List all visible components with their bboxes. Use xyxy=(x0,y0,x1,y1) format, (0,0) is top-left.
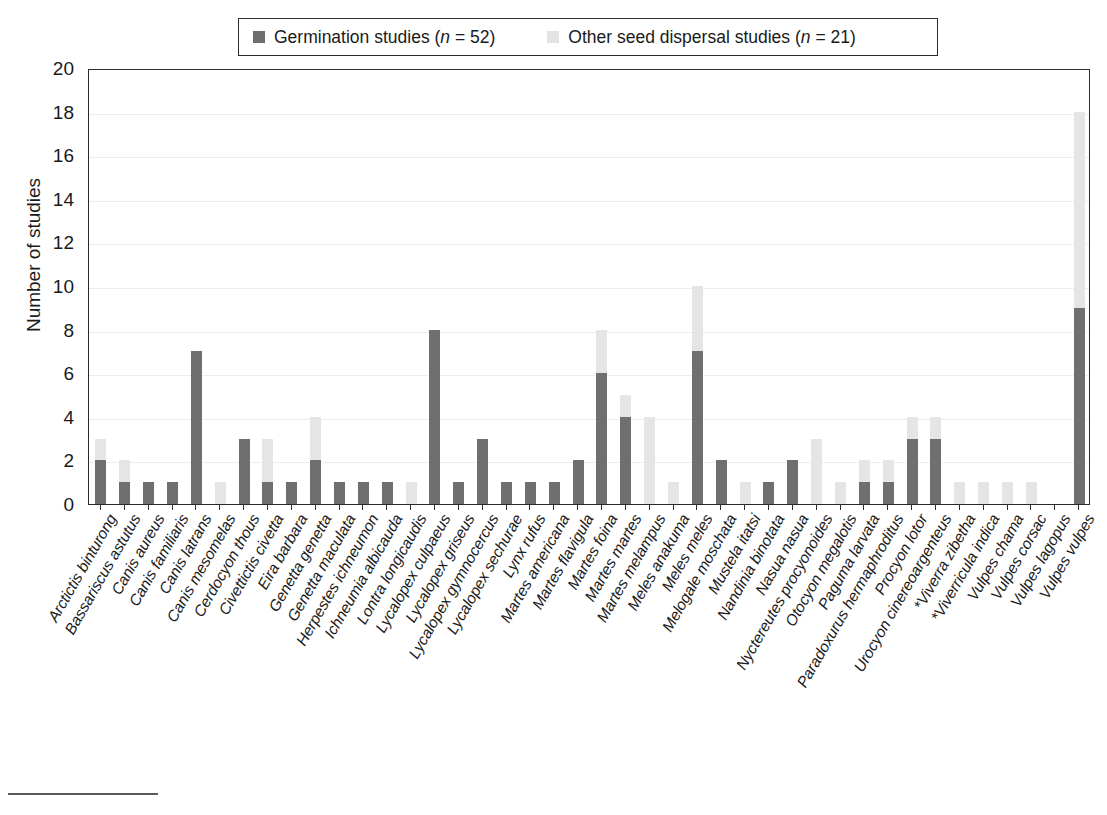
x-axis-tick-labels: Arctictis binturongBassariscus astutusCa… xyxy=(88,505,1090,775)
bar-segment-germination xyxy=(573,460,584,504)
bar-segment-other-dispersal xyxy=(954,482,965,504)
bar-segment-other-dispersal xyxy=(95,439,106,461)
bar-column xyxy=(573,68,584,504)
bar-column xyxy=(1050,68,1061,504)
bar-column xyxy=(907,68,918,504)
bar-column xyxy=(883,68,894,504)
bar-segment-other-dispersal xyxy=(692,286,703,351)
bar-segment-germination xyxy=(501,482,512,504)
bar-segment-germination xyxy=(334,482,345,504)
bar-column xyxy=(95,68,106,504)
bar-column xyxy=(525,68,536,504)
bar-segment-other-dispersal xyxy=(907,417,918,439)
bar-segment-germination xyxy=(119,482,130,504)
bar-segment-germination xyxy=(692,351,703,504)
bar-segment-germination xyxy=(143,482,154,504)
bar-segment-germination xyxy=(477,439,488,504)
bar-column xyxy=(167,68,178,504)
bar-column xyxy=(191,68,202,504)
bar-segment-other-dispersal xyxy=(978,482,989,504)
bar-segment-germination xyxy=(716,460,727,504)
bar-segment-germination xyxy=(549,482,560,504)
bar-column xyxy=(215,68,226,504)
bar-segment-other-dispersal xyxy=(740,482,751,504)
bar-column xyxy=(978,68,989,504)
legend-swatch-germination-icon xyxy=(253,31,265,43)
bar-segment-germination xyxy=(286,482,297,504)
y-axis-tick-12: 12 xyxy=(53,232,74,254)
bar-segment-germination xyxy=(191,351,202,504)
bar-segment-other-dispersal xyxy=(1002,482,1013,504)
bar-segment-germination xyxy=(239,439,250,504)
bar-column xyxy=(811,68,822,504)
legend-swatch-other-dispersal-icon xyxy=(547,31,559,43)
bar-segment-germination xyxy=(167,482,178,504)
bar-segment-germination xyxy=(453,482,464,504)
bar-column xyxy=(644,68,655,504)
y-axis-tick-20: 20 xyxy=(53,58,74,80)
bar-column xyxy=(501,68,512,504)
bar-segment-germination xyxy=(358,482,369,504)
bar-column xyxy=(930,68,941,504)
bar-segment-germination xyxy=(787,460,798,504)
bar-column xyxy=(286,68,297,504)
bar-column xyxy=(692,68,703,504)
bar-segment-germination xyxy=(883,482,894,504)
bar-segment-other-dispersal xyxy=(668,482,679,504)
bar-segment-germination xyxy=(1074,308,1085,504)
bar-segment-other-dispersal xyxy=(883,460,894,482)
bar-segment-other-dispersal xyxy=(1026,482,1037,504)
y-axis-tick-6: 6 xyxy=(63,363,74,385)
bar-column xyxy=(453,68,464,504)
legend-entry-germination: Germination studies (n = 52) xyxy=(253,27,495,48)
bar-segment-germination xyxy=(525,482,536,504)
bar-segment-other-dispersal xyxy=(310,417,321,461)
bar-series-group xyxy=(89,70,1089,504)
bar-column xyxy=(119,68,130,504)
bar-segment-germination xyxy=(907,439,918,504)
bar-segment-germination xyxy=(429,330,440,504)
bar-segment-other-dispersal xyxy=(406,482,417,504)
legend-label-other-dispersal: Other seed dispersal studies (n = 21) xyxy=(568,27,855,48)
bar-segment-other-dispersal xyxy=(859,460,870,482)
bar-segment-germination xyxy=(930,439,941,504)
bar-segment-other-dispersal xyxy=(811,439,822,504)
bar-segment-germination xyxy=(596,373,607,504)
bar-column xyxy=(954,68,965,504)
bar-column xyxy=(334,68,345,504)
bar-column xyxy=(668,68,679,504)
bar-column xyxy=(835,68,846,504)
caption-rule-divider xyxy=(8,793,158,795)
y-axis-tick-labels: 02468101214161820 xyxy=(36,69,82,505)
bar-column xyxy=(239,68,250,504)
bar-column xyxy=(429,68,440,504)
bar-column xyxy=(358,68,369,504)
legend-label-germination: Germination studies (n = 52) xyxy=(274,27,495,48)
figure-container: Germination studies (n = 52) Other seed … xyxy=(0,0,1107,815)
bar-column xyxy=(1074,68,1085,504)
bar-segment-other-dispersal xyxy=(262,439,273,483)
y-axis-tick-8: 8 xyxy=(63,320,74,342)
bar-column xyxy=(143,68,154,504)
bar-segment-germination xyxy=(262,482,273,504)
y-axis-tick-16: 16 xyxy=(53,145,74,167)
y-axis-tick-18: 18 xyxy=(53,102,74,124)
bar-segment-other-dispersal xyxy=(620,395,631,417)
y-axis-tick-14: 14 xyxy=(53,189,74,211)
bar-column xyxy=(406,68,417,504)
bar-segment-other-dispersal xyxy=(930,417,941,439)
bar-column xyxy=(620,68,631,504)
bar-column xyxy=(763,68,774,504)
bar-column xyxy=(787,68,798,504)
y-axis-tick-4: 4 xyxy=(63,407,74,429)
chart-legend: Germination studies (n = 52) Other seed … xyxy=(238,18,938,56)
bar-column xyxy=(1026,68,1037,504)
bar-column xyxy=(740,68,751,504)
legend-entry-other-dispersal: Other seed dispersal studies (n = 21) xyxy=(547,27,855,48)
bar-segment-other-dispersal xyxy=(644,417,655,504)
bar-segment-germination xyxy=(310,460,321,504)
bar-column xyxy=(1002,68,1013,504)
bar-segment-germination xyxy=(95,460,106,504)
y-axis-tick-10: 10 xyxy=(53,276,74,298)
y-axis-tick-2: 2 xyxy=(63,450,74,472)
